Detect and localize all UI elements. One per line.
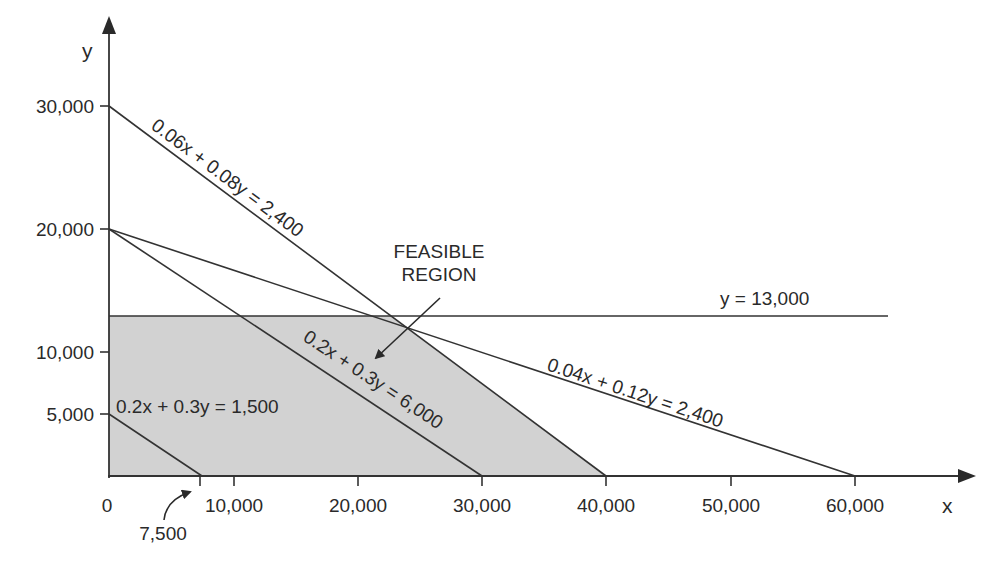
y-axis-arrow-icon bbox=[102, 16, 116, 34]
x-tick-label: 40,000 bbox=[577, 495, 635, 516]
arrow-7500-icon bbox=[164, 492, 190, 520]
line-label-d: 0.2x + 0.3y = 1,500 bbox=[116, 396, 279, 417]
y-axis-label: y bbox=[82, 39, 93, 62]
y-tick-label: 30,000 bbox=[36, 96, 94, 117]
x-axis-label: x bbox=[942, 494, 953, 517]
x-tick-label: 60,000 bbox=[826, 495, 884, 516]
feasible-region-label: REGION bbox=[402, 264, 477, 285]
x-tick-label: 30,000 bbox=[453, 495, 511, 516]
feasible-region-chart: y x 30,000 20,000 10,000 5,000 0 10,000 … bbox=[0, 0, 991, 566]
x-axis-arrow-icon bbox=[958, 469, 976, 483]
y-ticks bbox=[100, 106, 109, 414]
x-tick-label: 10,000 bbox=[205, 495, 263, 516]
x-ticks bbox=[200, 476, 855, 486]
y-tick-label: 20,000 bbox=[36, 219, 94, 240]
x-tick-label-7500: 7,500 bbox=[139, 523, 187, 544]
x-tick-label: 0 bbox=[102, 495, 113, 516]
line-label-b: 0.04x + 0.12y = 2,400 bbox=[545, 354, 726, 432]
line-label-h: y = 13,000 bbox=[720, 288, 809, 309]
y-tick-label: 5,000 bbox=[46, 404, 94, 425]
feasible-region-label: FEASIBLE bbox=[394, 241, 485, 262]
x-tick-label: 50,000 bbox=[702, 495, 760, 516]
x-tick-label: 20,000 bbox=[329, 495, 387, 516]
line-label-a: 0.06x + 0.08y = 2,400 bbox=[148, 114, 308, 241]
y-tick-label: 10,000 bbox=[36, 342, 94, 363]
